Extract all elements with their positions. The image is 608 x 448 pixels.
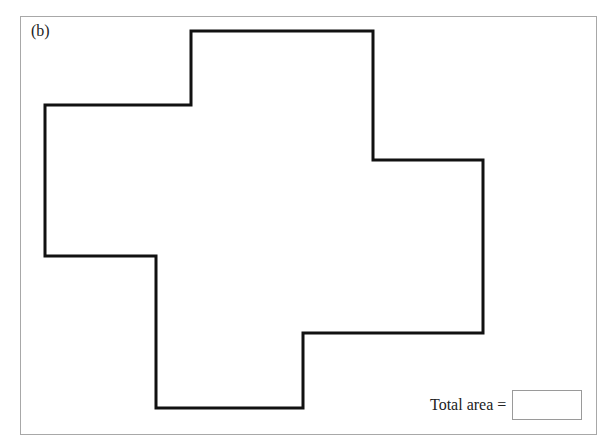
total-area-label: Total area =	[430, 396, 506, 414]
cross-shape-diagram	[0, 0, 608, 448]
rectilinear-polygon	[45, 31, 483, 408]
total-area-row: Total area =	[430, 389, 582, 421]
total-area-input[interactable]	[512, 390, 582, 420]
